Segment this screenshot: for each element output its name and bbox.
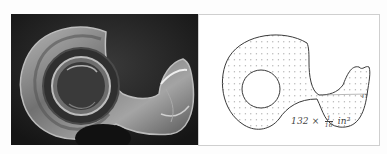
fraction-denominator: 16 <box>325 122 333 128</box>
area-count: 132 <box>291 116 309 126</box>
dispenser-outline-drawing: 132 × 1 16 in² 47 <box>198 14 380 146</box>
outline-sketch <box>199 15 380 146</box>
area-annotation: 132 × 1 16 in² <box>291 115 351 128</box>
times-sign: × <box>312 116 320 126</box>
tape-dispenser-photo <box>11 14 198 145</box>
figure: 132 × 1 16 in² 47 <box>0 0 387 154</box>
area-unit: in² <box>338 116 351 126</box>
photo-illustration <box>11 14 198 145</box>
edge-annotation: 47 <box>361 93 367 99</box>
fraction: 1 16 <box>325 115 333 128</box>
